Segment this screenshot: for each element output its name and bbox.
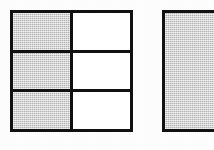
grid-row <box>13 13 130 50</box>
grid-cell-r2c1 <box>13 53 70 90</box>
grid-cell-r2c2 <box>70 53 130 90</box>
grid-cell-r3c1 <box>13 92 70 129</box>
grid-cell-r3c2 <box>70 92 130 129</box>
grid-row <box>13 89 130 129</box>
grid-row <box>13 50 130 90</box>
figure-two-solid-square <box>162 10 214 132</box>
grid-cell-r1c2 <box>70 13 130 50</box>
grid-cell-r1c1 <box>13 13 70 50</box>
figure-one-grid-square <box>10 10 133 132</box>
